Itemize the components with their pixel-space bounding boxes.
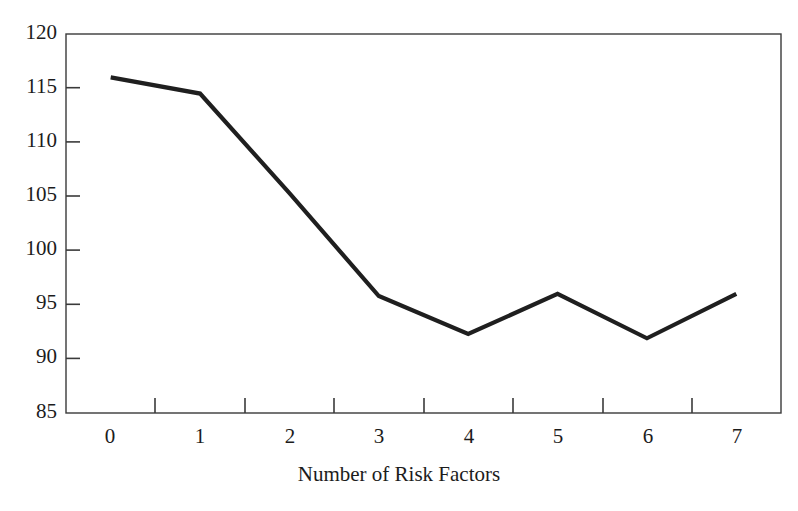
x-tick-label-7: 7: [732, 424, 743, 448]
y-tick-label-95: 95: [36, 290, 57, 314]
y-tick-label-120: 120: [26, 20, 58, 44]
y-tick-label-110: 110: [26, 128, 57, 152]
x-axis-title: Number of Risk Factors: [298, 462, 500, 486]
x-tick-label-4: 4: [464, 424, 475, 448]
y-tick-label-85: 85: [36, 399, 57, 423]
x-tick-label-1: 1: [195, 424, 206, 448]
x-tick-label-6: 6: [643, 424, 654, 448]
line-chart: 120 115 110 105 100 95 90 85 0 1 2 3 4 5: [0, 0, 798, 511]
x-tick-label-5: 5: [553, 424, 564, 448]
chart-background: [0, 0, 798, 511]
y-tick-label-100: 100: [26, 236, 58, 260]
y-tick-label-115: 115: [26, 74, 57, 98]
x-tick-label-0: 0: [105, 424, 116, 448]
x-tick-label-3: 3: [374, 424, 385, 448]
y-tick-label-105: 105: [26, 182, 58, 206]
chart-figure: 120 115 110 105 100 95 90 85 0 1 2 3 4 5: [0, 0, 798, 511]
y-tick-label-90: 90: [36, 344, 57, 368]
x-tick-label-2: 2: [285, 424, 296, 448]
